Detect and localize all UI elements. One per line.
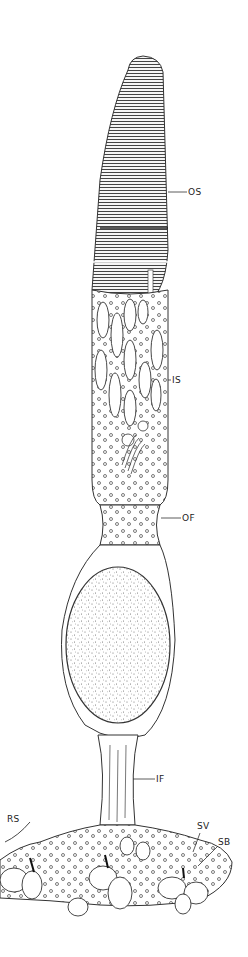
label-sv: SV xyxy=(197,822,209,831)
label-of: OF xyxy=(182,514,195,523)
rod-spherule-line xyxy=(5,822,30,842)
synaptic-terminal xyxy=(0,822,232,916)
photoreceptor-drawing xyxy=(0,0,248,957)
label-sb: SB xyxy=(218,838,231,847)
label-os: OS xyxy=(188,188,201,197)
outer-segment xyxy=(92,56,168,325)
cell-body xyxy=(61,545,175,738)
outer-fiber xyxy=(100,505,160,545)
label-is: IS xyxy=(172,376,181,385)
inner-fiber xyxy=(98,735,138,825)
inner-segment xyxy=(92,290,168,505)
label-rs: RS xyxy=(7,815,20,824)
label-if: IF xyxy=(156,775,164,784)
nucleus xyxy=(66,567,170,723)
